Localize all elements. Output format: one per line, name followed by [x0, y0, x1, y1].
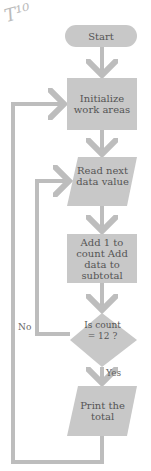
decision-label: Is count = 12 ?: [80, 320, 125, 342]
start-label: Start: [65, 31, 137, 42]
no-edge-label: No: [18, 322, 31, 332]
yes-edge-label: Yes: [106, 368, 121, 378]
add-label: Add 1 to count Add data to subtotal: [68, 237, 136, 281]
print-label: Print the total: [75, 400, 130, 422]
init-label: Initialize work areas: [72, 93, 132, 115]
read-label: Read next data value: [75, 165, 130, 187]
